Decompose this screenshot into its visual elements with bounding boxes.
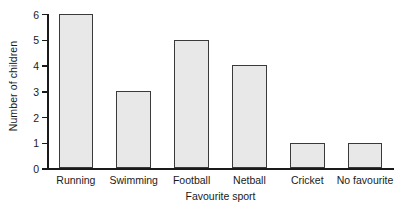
y-axis-tick-label: 2 xyxy=(33,112,39,123)
y-axis-tick-label: 3 xyxy=(33,87,39,98)
x-axis-line xyxy=(47,168,394,170)
x-axis-tick-label: Cricket xyxy=(291,174,324,187)
x-axis-tick-label: Football xyxy=(173,174,210,187)
plot-area: 0123456 xyxy=(47,14,394,170)
x-axis-tick-label: Swimming xyxy=(110,174,158,187)
bar xyxy=(348,143,383,169)
y-axis-title-text: Number of children xyxy=(7,41,19,132)
bar xyxy=(290,143,325,169)
y-axis-tick-label: 1 xyxy=(33,138,39,149)
bar-chart: Number of children 0123456 RunningSwimmi… xyxy=(0,0,404,217)
x-axis-tick-label: Netball xyxy=(233,174,266,187)
y-axis-tick-label: 0 xyxy=(33,164,39,175)
bar xyxy=(116,91,151,168)
y-axis-tick-label: 6 xyxy=(33,9,39,20)
y-axis-tick-mark: 0 xyxy=(42,168,47,169)
bars-layer xyxy=(47,14,394,168)
bar xyxy=(59,14,94,168)
bar xyxy=(174,40,209,169)
x-axis-title: Favourite sport xyxy=(47,190,394,202)
y-axis-tick-label: 4 xyxy=(33,61,39,72)
y-axis-title: Number of children xyxy=(2,0,24,172)
x-axis-tick-label: Running xyxy=(56,174,95,187)
y-axis-tick-label: 5 xyxy=(33,35,39,46)
x-axis-tick-label: No favourite xyxy=(337,174,394,187)
bar xyxy=(232,65,267,168)
x-axis-tick-labels: RunningSwimmingFootballNetballCricketNo … xyxy=(47,174,394,190)
